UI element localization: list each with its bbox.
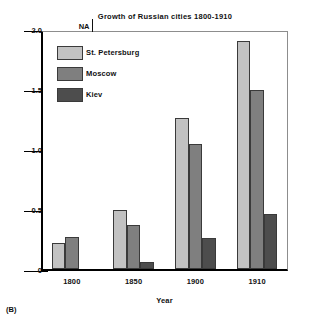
x-axis-title: Year — [41, 296, 288, 305]
y-axis-tick-label: 1.0 — [2, 147, 42, 155]
bar — [65, 237, 79, 269]
bar — [189, 144, 203, 269]
legend-item: Kiev — [57, 86, 139, 103]
y-axis-tick-label: 0.5 — [2, 207, 42, 215]
bar — [140, 262, 154, 269]
legend-item: St. Petersburg — [57, 44, 139, 61]
y-axis-tick-label: 0 — [2, 267, 42, 275]
y-axis-tick-label: 1.5 — [2, 87, 42, 95]
legend: St. PetersburgMoscowKiev — [57, 44, 139, 107]
legend-swatch — [57, 67, 83, 81]
legend-label: Moscow — [86, 69, 117, 78]
bar — [127, 225, 141, 269]
x-axis-tick-label: 1910 — [231, 277, 283, 286]
legend-swatch — [57, 88, 83, 102]
bar — [264, 214, 278, 269]
x-axis-tick-label: 1900 — [169, 277, 221, 286]
x-axis-tick-label: 1850 — [108, 277, 160, 286]
bar — [52, 243, 66, 269]
bar — [175, 118, 189, 269]
panel-label: (B) — [6, 305, 16, 314]
bar — [113, 210, 127, 269]
legend-swatch — [57, 46, 83, 60]
x-axis-tick-label: 1800 — [46, 277, 98, 286]
bar — [250, 90, 264, 269]
y-axis-tick-label: 2.0 — [2, 27, 42, 35]
legend-label: Kiev — [86, 90, 102, 99]
figure-panel: Growth of Russian cities 1800-1910 Total… — [0, 0, 310, 330]
legend-label: St. Petersburg — [86, 48, 139, 57]
na-annotation-label: NA — [79, 22, 90, 31]
bar — [237, 41, 251, 269]
legend-item: Moscow — [57, 65, 139, 82]
bar — [202, 238, 216, 269]
na-leader-line — [92, 19, 93, 32]
